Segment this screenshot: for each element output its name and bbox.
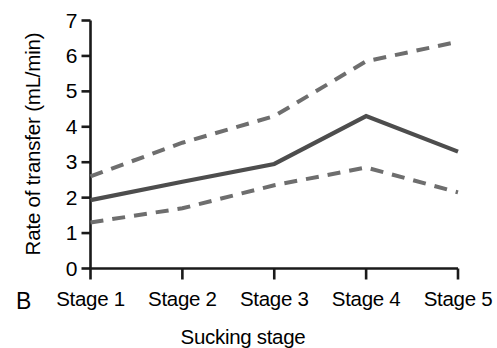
y-tick-label: 5	[52, 80, 78, 101]
y-axis-title: Rate of transfer (mL/min)	[21, 19, 45, 269]
y-tick-label: 4	[52, 116, 78, 137]
y-tick-label: 0	[52, 258, 78, 279]
y-tick-label: 2	[52, 187, 78, 208]
y-tick-label: 6	[52, 45, 78, 66]
y-tick-label: 3	[52, 151, 78, 172]
chart-axes	[82, 21, 459, 280]
panel-label: B	[16, 290, 31, 313]
x-tick-label: Stage 3	[229, 288, 319, 309]
y-tick-label: 7	[52, 10, 78, 31]
series-line-1	[91, 116, 459, 200]
x-tick-label: Stage 1	[46, 288, 136, 309]
x-tick-label: Stage 4	[321, 288, 411, 309]
x-tick-label: Stage 5	[413, 288, 497, 309]
y-tick-label: 1	[52, 222, 78, 243]
chart-series	[91, 42, 459, 223]
series-line-2	[91, 168, 459, 223]
x-axis-title: Sucking stage	[0, 326, 486, 347]
series-line-0	[91, 42, 459, 177]
x-tick-label: Stage 2	[137, 288, 227, 309]
